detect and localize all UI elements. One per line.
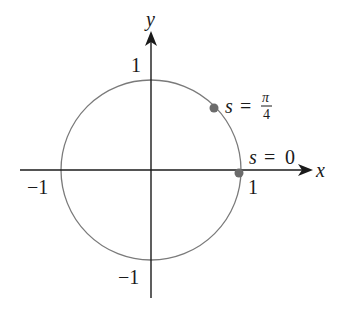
label-s-pi-var: s (225, 95, 233, 117)
x-tick-label-pos1: 1 (248, 176, 258, 198)
point-s-zero (235, 169, 244, 178)
diagram-canvas: y x 1 −1 −1 1 s = 0 s = π 4 (0, 0, 340, 314)
x-axis-label: x (315, 159, 325, 181)
label-s-pi-eq: = (240, 95, 251, 117)
label-s-zero: s = 0 (249, 146, 295, 168)
label-s-pi-numerator: π (262, 90, 270, 105)
unit-circle-figure: y x 1 −1 −1 1 s = 0 s = π 4 (0, 0, 340, 314)
y-tick-label-pos1: 1 (131, 54, 141, 76)
x-tick-label-neg1: −1 (27, 176, 48, 198)
label-s-zero-var: s (249, 146, 257, 168)
label-s-pi-over-4: s = π 4 (225, 90, 272, 122)
y-axis-label: y (144, 8, 155, 31)
y-tick-label-neg1: −1 (118, 266, 139, 288)
label-s-pi-denominator: 4 (263, 107, 270, 122)
label-s-zero-value: 0 (285, 146, 295, 168)
label-s-zero-eq: = (264, 146, 275, 168)
point-s-pi-over-4 (210, 104, 219, 113)
